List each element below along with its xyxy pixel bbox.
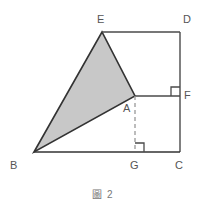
figure-caption: 圖 2	[0, 186, 206, 201]
geometry-canvas	[0, 0, 206, 208]
vertex-label-g: G	[130, 160, 139, 171]
vertex-label-d: D	[183, 14, 191, 25]
vertex-label-a: A	[123, 103, 130, 114]
vertex-label-f: F	[184, 90, 191, 101]
vertex-label-b: B	[10, 160, 17, 171]
geometry-figure: E D A F B G C 圖 2	[0, 0, 206, 208]
shaded-triangle-bea	[34, 32, 135, 152]
right-angle-mark-g	[135, 143, 144, 152]
vertex-label-c: C	[175, 160, 183, 171]
right-angle-mark-f	[171, 87, 180, 96]
vertex-label-e: E	[97, 14, 104, 25]
